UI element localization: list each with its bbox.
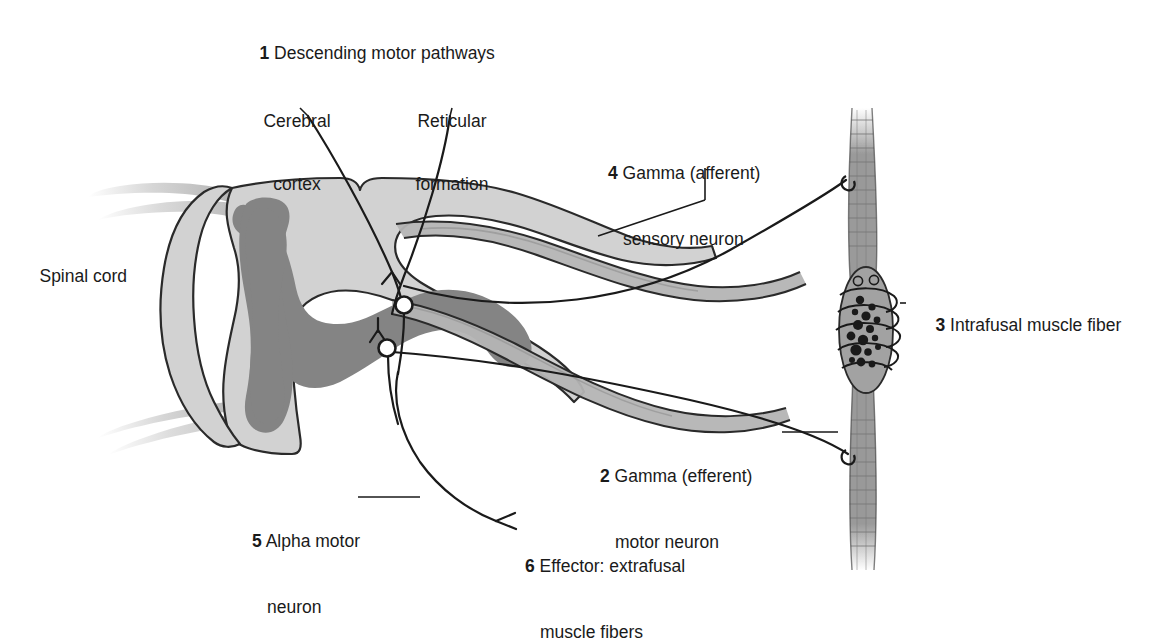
label-6-line2: muscle fibers [540, 622, 643, 642]
cerebral-cortex-line1: Cerebral [238, 111, 356, 132]
label-6-line1: Effector: extrafusal [540, 556, 686, 576]
label-4-line2: sensory neuron [623, 229, 744, 249]
label-5-line1: Alpha motor [266, 531, 360, 551]
cerebral-cortex-line2: cortex [238, 174, 356, 195]
label-5-line2: neuron [267, 597, 322, 617]
label-3-number: 3 [935, 315, 945, 335]
label-2-line1: Gamma (efferent) [615, 466, 753, 486]
label-3-text: Intrafusal muscle fiber [950, 315, 1121, 335]
reticular-formation-line2: formation [390, 174, 514, 195]
label-5-alpha-motor-neuron: 5 Alpha motor neuron [252, 486, 360, 642]
alpha-motor-axon [396, 372, 496, 521]
cell-body-upper [396, 297, 413, 314]
label-4-line1: Gamma (afferent) [623, 163, 761, 183]
label-5-number: 5 [252, 531, 262, 551]
ellipse-label-reticular-formation: Reticular formation [390, 69, 514, 237]
label-3-intrafusal-muscle-fiber: 3 Intrafusal muscle fiber [916, 292, 1121, 358]
reticular-formation-line1: Reticular [390, 111, 514, 132]
ellipse-label-cerebral-cortex: Cerebral cortex [238, 69, 356, 237]
label-2-number: 2 [600, 466, 610, 486]
label-6-effector-extrafusal-muscle-fibers: 6 Effector: extrafusal muscle fibers [525, 511, 685, 642]
label-6-number: 6 [525, 556, 535, 576]
label-1-text: Descending motor pathways [274, 43, 495, 63]
cell-body-lower [379, 340, 396, 357]
label-1-number: 1 [259, 43, 269, 63]
label-spinal-cord: Spinal cord [20, 243, 127, 309]
label-4-number: 4 [608, 163, 618, 183]
label-4-gamma-afferent-sensory-neuron: 4 Gamma (afferent) sensory neuron [608, 118, 760, 294]
effector-terminal [496, 513, 516, 529]
